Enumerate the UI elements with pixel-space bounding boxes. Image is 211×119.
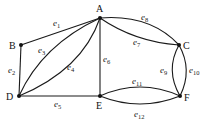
edge-label-e7: e7 (133, 37, 141, 48)
edge-e3 (19, 18, 100, 96)
edge-label-e11: e11 (132, 76, 142, 87)
vertex-label-E: E (96, 100, 102, 111)
vertex-label-A: A (96, 3, 104, 14)
edge-e2 (19, 45, 21, 96)
vertex-C (177, 43, 181, 47)
vertex-label-D: D (6, 91, 13, 102)
edge-label-e3: e3 (38, 45, 45, 56)
edge-label-e6: e6 (103, 54, 111, 65)
vertex-D (17, 94, 21, 98)
edge-label-e12: e12 (134, 109, 145, 119)
edge-e10 (179, 45, 186, 96)
vertex-label-C: C (183, 40, 190, 51)
edge-e9 (172, 45, 180, 96)
edge-label-e9: e9 (160, 65, 167, 76)
vertex-label-B: B (9, 40, 16, 51)
edge-label-e5: e5 (54, 99, 61, 110)
edge-label-e10: e10 (189, 65, 200, 76)
edge-label-e1: e1 (53, 18, 60, 29)
vertex-E (98, 94, 102, 98)
edge-e4 (19, 18, 100, 96)
edge-e11 (100, 87, 180, 96)
vertex-F (178, 94, 182, 98)
edge-e1 (21, 18, 100, 45)
vertex-label-F: F (184, 92, 190, 103)
graph-diagram: A B C D E F e1 e2 e3 e4 e5 e6 e7 e8 e9 e… (0, 0, 211, 119)
edge-label-e2: e2 (8, 65, 15, 76)
vertex-B (19, 43, 23, 47)
vertex-A (98, 16, 102, 20)
edge-e12 (100, 96, 180, 104)
edge-label-e8: e8 (141, 12, 148, 23)
